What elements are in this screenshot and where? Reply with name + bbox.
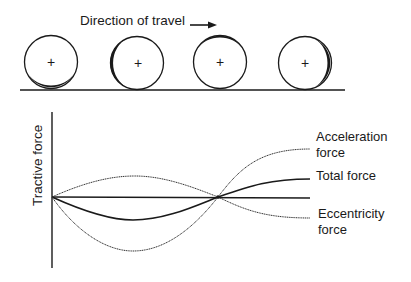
zero-baseline xyxy=(52,197,310,198)
acceleration-force-curve xyxy=(52,149,310,251)
wheel-4: + xyxy=(279,37,332,90)
wheel-2: + xyxy=(110,37,163,90)
wheel-center-mark: + xyxy=(47,54,55,70)
direction-of-travel-label: Direction of travel xyxy=(80,13,185,29)
crossover-point xyxy=(216,195,220,199)
acceleration-force-label: Acceleration force xyxy=(316,129,411,161)
wheel-3: + xyxy=(194,36,247,89)
y-axis-label: Tractive force xyxy=(30,125,46,206)
direction-arrow-icon xyxy=(190,22,217,29)
wheel-center-mark: + xyxy=(216,54,224,70)
wheel-center-mark: + xyxy=(301,55,309,71)
total-force-curve xyxy=(52,179,310,220)
wheel-1: + xyxy=(25,36,78,89)
total-force-label: Total force xyxy=(316,168,411,184)
wheel-center-mark: + xyxy=(134,55,142,71)
eccentricity-force-label: Eccentricity force xyxy=(318,206,411,238)
